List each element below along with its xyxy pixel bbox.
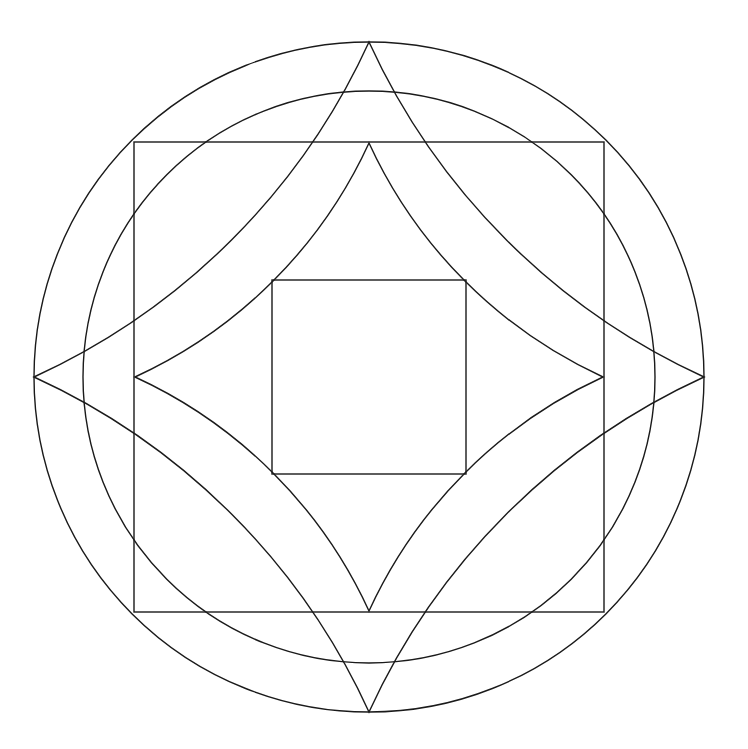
geometric-diagram [0,0,748,749]
inner-square [272,280,466,474]
outer-square [134,142,604,612]
inner-four-point-star [135,143,603,611]
inner-circle [83,91,655,663]
